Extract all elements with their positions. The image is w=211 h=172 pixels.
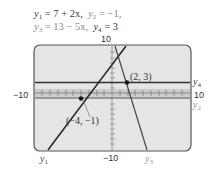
y4-label: y4: [193, 76, 201, 89]
graph-screen: [0, 0, 211, 172]
y-max-label: 10: [101, 34, 111, 44]
point-neg4-neg1: [79, 96, 83, 100]
x-min-label: −10: [13, 90, 28, 100]
point-label-neg4-neg1: (−4, −1): [66, 115, 99, 126]
y-min-label: −10: [103, 153, 118, 163]
point-2-3: [125, 80, 129, 84]
y1-label: y1: [40, 153, 48, 166]
y3-label: y3: [145, 153, 153, 166]
y2-label: y2: [193, 99, 201, 112]
point-label-2-3: (2, 3): [130, 71, 152, 82]
